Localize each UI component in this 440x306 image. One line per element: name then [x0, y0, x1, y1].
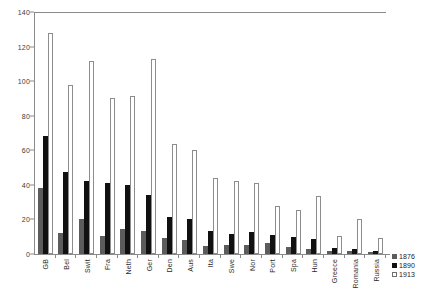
x-axis-labels: GBBelSwitFraNethGerDenAusItaSweNorPortSp… [35, 259, 386, 304]
bar-Port-1913 [275, 206, 280, 254]
bar-Spa-1913 [296, 210, 301, 254]
x-axis-label-cell: Russia [365, 259, 386, 304]
x-axis-tick-mark [241, 254, 262, 258]
bar-chart: 020406080100120140 GBBelSwitFraNethGerDe… [0, 0, 440, 306]
x-axis-label-cell: Greece [324, 259, 345, 304]
x-axis-tick-label: Russia [372, 259, 379, 282]
x-axis-tick-mark [221, 254, 242, 258]
y-axis-tick-label: 100 [18, 78, 30, 85]
bar-group [159, 12, 180, 254]
bar-group [345, 12, 366, 254]
bar-Hun-1913 [316, 196, 321, 254]
legend-item-1890: 1890 [392, 261, 438, 269]
bar-Neth-1913 [130, 96, 135, 254]
bar-group [179, 12, 200, 254]
legend-label: 1890 [399, 262, 415, 269]
x-axis-label-cell: Bel [56, 259, 77, 304]
x-axis-ticks [35, 254, 386, 258]
x-axis-label-cell: Den [159, 259, 180, 304]
x-axis-tick-label: Romania [351, 259, 358, 288]
legend-swatch-icon [392, 263, 397, 268]
legend-label: 1913 [399, 271, 415, 278]
bar-Swe-1913 [234, 181, 239, 254]
bar-Ita-1913 [213, 178, 218, 254]
bar-group [97, 12, 118, 254]
bar-group [303, 12, 324, 254]
x-axis-tick-mark [303, 254, 324, 258]
x-axis-tick-label: Spa [290, 259, 297, 272]
x-axis-tick-label: Fra [104, 259, 111, 270]
bar-group [241, 12, 262, 254]
x-axis-label-cell: Spa [283, 259, 304, 304]
x-axis-tick-mark [324, 254, 345, 258]
bar-group [76, 12, 97, 254]
x-axis-label-cell: Romania [345, 259, 366, 304]
x-axis-tick-mark [283, 254, 304, 258]
bar-Bel-1913 [68, 85, 73, 254]
x-axis-label-cell: Hun [303, 259, 324, 304]
y-axis-tick-label: 40 [22, 181, 30, 188]
bar-group [138, 12, 159, 254]
y-axis-tick-label: 80 [22, 112, 30, 119]
x-axis-label-cell: Fra [97, 259, 118, 304]
x-axis-tick-mark [97, 254, 118, 258]
x-axis-tick-mark [345, 254, 366, 258]
legend-item-1913: 1913 [392, 270, 438, 278]
x-axis-tick-label: Nor [248, 259, 255, 271]
x-axis-tick-label: Den [166, 259, 173, 272]
y-axis-tick-label: 120 [18, 43, 30, 50]
bar-group [56, 12, 77, 254]
bar-Romania-1913 [357, 219, 362, 254]
y-axis-tick-label: 140 [18, 9, 30, 16]
x-axis-label-cell: Nor [241, 259, 262, 304]
bar-group [118, 12, 139, 254]
x-axis-label-cell: Neth [118, 259, 139, 304]
x-axis-tick-label: Ita [207, 259, 214, 267]
bar-Swit-1913 [89, 61, 94, 254]
bar-group [221, 12, 242, 254]
x-axis-tick-mark [262, 254, 283, 258]
x-axis-label-cell: Ita [200, 259, 221, 304]
bars-layer [35, 12, 386, 254]
bar-GB-1913 [48, 33, 53, 254]
x-axis-label-cell: Swit [76, 259, 97, 304]
x-axis-label-cell: Aus [179, 259, 200, 304]
chart-legend: 187618901913 [392, 252, 438, 278]
x-axis-tick-label: Aus [186, 259, 193, 272]
x-axis-tick-label: Swe [228, 259, 235, 273]
bar-Den-1913 [172, 144, 177, 254]
x-axis-tick-mark [56, 254, 77, 258]
x-axis-tick-label: Hun [310, 259, 317, 272]
bar-Nor-1913 [254, 183, 259, 254]
x-axis-label-cell: Swe [221, 259, 242, 304]
x-axis-tick-mark [179, 254, 200, 258]
x-axis-tick-mark [200, 254, 221, 258]
x-axis-tick-mark [138, 254, 159, 258]
x-axis-tick-label: Swit [83, 259, 90, 273]
bar-group [200, 12, 221, 254]
bar-Russia-1913 [378, 238, 383, 254]
x-axis-tick-label: Bel [62, 259, 69, 270]
x-axis-tick-mark [118, 254, 139, 258]
legend-item-1876: 1876 [392, 252, 438, 260]
x-axis-tick-mark [76, 254, 97, 258]
x-axis-tick-label: GB [42, 259, 49, 270]
bar-group [365, 12, 386, 254]
x-axis-tick-label: Neth [124, 259, 131, 275]
legend-label: 1876 [399, 253, 415, 260]
x-axis-tick-label: Port [269, 259, 276, 273]
x-axis-tick-mark [159, 254, 180, 258]
bar-group [262, 12, 283, 254]
x-axis-tick-label: Ger [145, 259, 152, 271]
bar-Fra-1913 [110, 98, 115, 254]
legend-swatch-icon [392, 272, 397, 277]
x-axis-tick-mark [35, 254, 56, 258]
y-axis-tick-label: 20 [22, 216, 30, 223]
bar-group [283, 12, 304, 254]
x-axis-tick-mark [365, 254, 386, 258]
x-axis-label-cell: GB [35, 259, 56, 304]
x-axis-tick-label: Greece [331, 259, 338, 283]
y-axis: 020406080100120140 [0, 0, 34, 254]
legend-swatch-icon [392, 254, 397, 259]
x-axis-label-cell: Ger [138, 259, 159, 304]
